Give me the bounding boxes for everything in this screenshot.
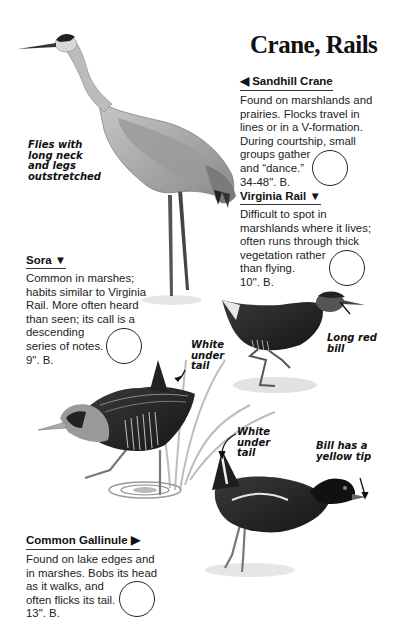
- entry-heading: Virginia Rail ▼: [240, 190, 321, 205]
- pointer-left-icon: ◀: [240, 75, 249, 87]
- entry-heading: Sora ▼: [26, 254, 66, 269]
- note-crane-flight: Flies with long neck and legs outstretch…: [28, 140, 101, 182]
- description-line: Rail. More often heard: [26, 299, 156, 313]
- description-line: than flying.: [240, 262, 398, 276]
- common-gallinule-illustration: [205, 450, 366, 577]
- entry-name: Sandhill Crane: [252, 75, 333, 87]
- description-line: in marshes. Bobs its head: [26, 567, 166, 581]
- entry-name: Virginia Rail: [240, 190, 306, 202]
- note-gallinule-tail: White under tail: [237, 427, 270, 459]
- sighting-checkbox[interactable]: [119, 581, 155, 617]
- entry-description: Found on lake edges and in marshes. Bobs…: [26, 553, 166, 621]
- entry-description: Found on marshlands and prairies. Flocks…: [240, 94, 398, 189]
- sighting-checkbox[interactable]: [106, 328, 142, 364]
- description-line: often runs through thick: [240, 235, 398, 249]
- sora-illustration: [38, 360, 195, 498]
- entry-common-gallinule: Common Gallinule ▶ Found on lake edges a…: [26, 530, 166, 621]
- page-title: Crane, Rails: [250, 31, 377, 59]
- entry-virginia-rail: Virginia Rail ▼ Difficult to spot in mar…: [240, 186, 398, 290]
- sighting-checkbox[interactable]: [312, 150, 348, 186]
- description-line: prairies. Flocks travel in: [240, 108, 398, 122]
- pointer-down-icon: ▼: [55, 254, 66, 266]
- pointer-right-icon: ▶: [131, 534, 140, 546]
- description-line: vegetation rather: [240, 249, 398, 263]
- entry-name: Common Gallinule: [26, 534, 128, 546]
- entry-description: Common in marshes; habits similar to Vir…: [26, 272, 156, 367]
- description-line: Difficult to spot in: [240, 208, 398, 222]
- sighting-checkbox[interactable]: [329, 250, 365, 286]
- description-line: marshlands where it lives;: [240, 222, 398, 236]
- description-line: lines or in a V-formation.: [240, 121, 398, 135]
- description-line: habits similar to Virginia: [26, 286, 156, 300]
- entry-heading: ◀ Sandhill Crane: [240, 74, 333, 91]
- entry-description: Difficult to spot in marshlands where it…: [240, 208, 398, 290]
- pointer-down-icon: ▼: [309, 190, 320, 202]
- note-gallinule-bill: Bill has a yellow tip: [316, 441, 371, 462]
- description-line: than seen; its call is a: [26, 313, 156, 327]
- note-sora-tail: White under tail: [191, 340, 224, 372]
- description-line: During courtship, small: [240, 135, 398, 149]
- description-line: Found on lake edges and: [26, 553, 166, 567]
- entry-sora: Sora ▼ Common in marshes; habits similar…: [26, 250, 156, 367]
- description-line: Found on marshlands and: [240, 94, 398, 108]
- entry-sandhill-crane: ◀ Sandhill Crane Found on marshlands and…: [240, 71, 398, 189]
- description-line: 10". B.: [240, 276, 398, 290]
- description-line: Common in marshes;: [26, 272, 156, 286]
- entry-heading: Common Gallinule ▶: [26, 533, 140, 550]
- entry-name: Sora: [26, 254, 52, 266]
- note-rail-bill: Long red bill: [327, 333, 377, 354]
